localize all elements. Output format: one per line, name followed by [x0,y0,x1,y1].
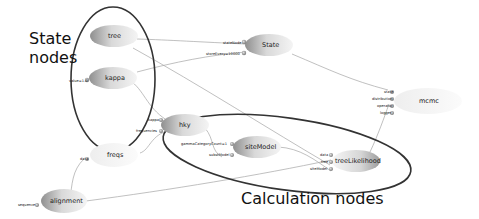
node-kappa-label: kappa [105,74,125,82]
node-sitemodel-label: siteModel [245,143,276,151]
port-hky-frequencies-label: frequencies [136,129,157,133]
port-state-statenode[interactable] [242,40,246,44]
state-nodes-label: State [29,29,71,48]
edges [70,39,389,201]
node-treelikelihood-label: treeLikelihood [335,157,381,165]
port-state-storeevery[interactable] [242,51,246,55]
port-sitemodel-gammacategorycount[interactable] [230,142,234,146]
node-alignment[interactable]: alignment sequence [18,189,87,213]
edge-state-to-mcmc [292,54,388,90]
port-treelikelihood-data[interactable] [329,153,333,157]
port-alignment-sequence[interactable] [35,203,39,207]
port-state-statenode-label: stateNode [223,41,242,45]
port-treelikelihood-sitemodel-label: siteModel [310,167,327,171]
node-tree-label: tree [108,32,121,40]
node-state-label: State [262,41,279,49]
port-kappa-value-label: value=1.0 [69,79,88,83]
node-hky-label: hky [179,121,191,129]
port-freqs-data-label: data [80,157,88,161]
node-state[interactable]: State stateNode storeEvery=10000 [206,34,293,56]
port-mcmc-logger-label: logger [380,111,392,115]
node-mcmc[interactable]: mcmc state distribution operator logger [372,88,462,115]
node-freqs[interactable]: freqs data [80,143,138,167]
port-state-storeevery-label: storeEvery=10000 [206,52,240,56]
calculation-nodes-label: Calculation nodes [241,189,384,208]
port-treelikelihood-tree-label: tree [321,160,329,164]
node-kappa[interactable]: kappa value=1.0 [69,67,137,89]
port-treelikelihood-sitemodel[interactable] [329,167,333,171]
node-alignment-label: alignment [50,197,83,205]
port-mcmc-distribution-label: distribution [372,97,392,101]
graph-canvas: State nodes Calculation nodes tree kappa… [0,0,479,219]
node-treelikelihood[interactable]: treeLikelihood data tree siteModel [310,150,381,172]
port-hky-kappa-label: kappa [148,118,159,122]
port-alignment-sequence-label: sequence [18,203,36,207]
port-mcmc-state-label: state [384,90,394,94]
port-sitemodel-gammacategorycount-label: gammaCategoryCount=1 [181,142,227,146]
node-tree[interactable]: tree [90,25,138,47]
edge-kappa-to-hky [132,82,170,122]
port-treelikelihood-data-label: data [320,153,328,157]
port-hky-frequencies[interactable] [159,129,163,133]
edge-freqs-to-hky [140,130,170,153]
port-hky-kappa[interactable] [159,118,163,122]
node-freqs-label: freqs [107,151,124,159]
node-mcmc-label: mcmc [419,97,439,105]
port-mcmc-operator-label: operator [377,104,393,108]
state-nodes-label-2: nodes [29,48,77,67]
port-sitemodel-substmodel-label: substModel [209,153,230,157]
port-sitemodel-substmodel[interactable] [230,153,234,157]
node-sitemodel[interactable]: siteModel gammaCategoryCount=1 substMode… [181,136,281,158]
node-hky[interactable]: hky kappa frequencies [136,114,209,136]
port-treelikelihood-tree[interactable] [329,160,333,164]
